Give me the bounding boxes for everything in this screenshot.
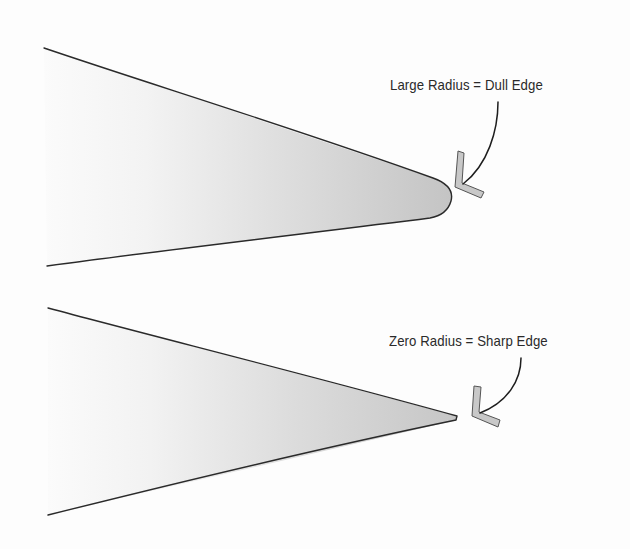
- edge-radius-diagram: Large Radius = Dull Edge Zero Radius = S…: [0, 0, 630, 549]
- dull-edge-label: Large Radius = Dull Edge: [390, 76, 543, 93]
- chevron-marker-icon: [472, 386, 500, 427]
- sharp-edge-label: Zero Radius = Sharp Edge: [389, 332, 548, 349]
- curved-arrow-icon: [463, 102, 498, 184]
- curved-arrow-icon: [480, 358, 521, 413]
- chevron-marker-icon: [455, 151, 484, 198]
